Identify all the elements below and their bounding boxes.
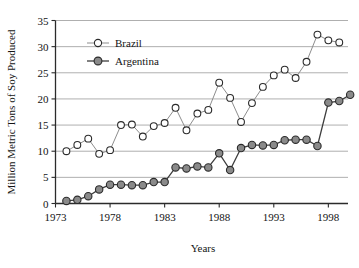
y-tick-label-15: 15 (38, 119, 50, 131)
y-axis-title: Million Metric Tons of Soy Produced (5, 29, 17, 194)
data-point-argentina-1974 (63, 197, 70, 204)
data-point-argentina-1975 (74, 196, 81, 203)
data-point-argentina-1997 (314, 142, 321, 149)
data-point-brazil-1974 (63, 148, 70, 155)
data-point-brazil-1999 (336, 39, 343, 46)
data-point-argentina-1998 (325, 99, 332, 106)
legend-marker-argentina-icon (94, 57, 102, 65)
legend-label-argentina: Argentina (115, 55, 159, 67)
x-tick-label-1993: 1993 (263, 211, 286, 223)
data-point-brazil-1995 (292, 75, 299, 82)
data-point-argentina-1999 (336, 97, 343, 104)
data-point-brazil-1989 (227, 94, 234, 101)
x-axis-title: Years (191, 242, 216, 254)
data-point-argentina-1981 (139, 182, 146, 189)
data-point-brazil-1997 (314, 31, 321, 38)
y-tick-label-35: 35 (38, 15, 50, 27)
data-point-brazil-1987 (205, 107, 212, 114)
y-tick-label-30: 30 (38, 41, 50, 53)
legend-marker-brazil-icon (94, 39, 101, 46)
data-point-argentina-1982 (150, 178, 157, 185)
data-point-argentina-1984 (172, 164, 179, 171)
data-point-brazil-1978 (107, 147, 114, 154)
data-point-argentina-2000 (346, 91, 353, 98)
data-point-brazil-1990 (238, 119, 245, 126)
data-point-argentina-1980 (128, 182, 135, 189)
data-point-brazil-1984 (172, 104, 179, 111)
x-tick-label-1998: 1998 (317, 211, 340, 223)
data-point-argentina-1978 (106, 181, 113, 188)
data-point-brazil-1979 (118, 122, 125, 129)
data-point-brazil-1998 (325, 37, 332, 44)
legend-label-brazil: Brazil (115, 37, 142, 49)
data-point-brazil-1975 (74, 142, 81, 149)
data-point-argentina-1977 (95, 186, 102, 193)
data-point-argentina-1979 (117, 181, 124, 188)
data-point-brazil-1976 (85, 135, 92, 142)
chart-figure: 05101520253035 197319781983198819931998 … (0, 0, 359, 268)
data-point-brazil-1981 (139, 133, 146, 140)
data-point-brazil-1980 (129, 121, 136, 128)
data-point-argentina-1992 (259, 142, 266, 149)
data-point-brazil-1994 (281, 66, 288, 73)
data-point-brazil-1977 (96, 150, 103, 157)
data-point-brazil-1993 (270, 72, 277, 79)
data-point-argentina-1976 (85, 192, 92, 199)
data-point-argentina-1989 (226, 166, 233, 173)
data-point-argentina-1993 (270, 141, 277, 148)
data-point-brazil-1991 (249, 100, 256, 107)
data-point-argentina-1983 (161, 178, 168, 185)
data-point-brazil-1986 (194, 110, 201, 117)
y-tick-label-20: 20 (38, 93, 50, 105)
x-tick-label-1983: 1983 (154, 211, 177, 223)
data-point-brazil-1983 (161, 120, 168, 127)
data-point-argentina-1990 (237, 144, 244, 151)
chart-background (0, 0, 359, 268)
data-point-argentina-1986 (194, 163, 201, 170)
y-tick-label-0: 0 (43, 198, 49, 210)
soy-production-line-chart: 05101520253035 197319781983198819931998 … (0, 0, 359, 268)
data-point-argentina-1996 (303, 136, 310, 143)
x-tick-label-1978: 1978 (99, 211, 122, 223)
y-tick-label-10: 10 (38, 145, 50, 157)
x-tick-label-1988: 1988 (208, 211, 231, 223)
data-point-argentina-1994 (281, 137, 288, 144)
data-point-argentina-1995 (292, 136, 299, 143)
data-point-argentina-1985 (183, 165, 190, 172)
data-point-brazil-1988 (216, 79, 223, 86)
data-point-brazil-1982 (150, 123, 157, 130)
data-point-argentina-1991 (248, 141, 255, 148)
data-point-argentina-1988 (216, 150, 223, 157)
y-tick-label-5: 5 (43, 171, 49, 183)
data-point-brazil-1985 (183, 127, 190, 134)
y-tick-label-25: 25 (38, 67, 50, 79)
data-point-argentina-1987 (205, 164, 212, 171)
x-tick-label-1973: 1973 (45, 211, 68, 223)
data-point-brazil-1992 (259, 84, 266, 91)
data-point-brazil-1996 (303, 58, 310, 65)
